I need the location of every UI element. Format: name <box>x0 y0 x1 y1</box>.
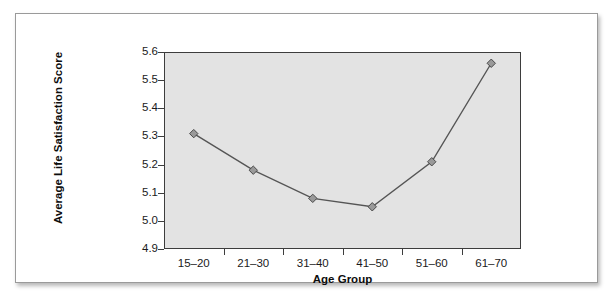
x-axis-tick-mark <box>283 249 284 255</box>
y-axis-tick-label: 5.3 <box>128 130 158 141</box>
y-axis-tick-mark <box>158 108 164 109</box>
x-axis-tick-mark <box>224 249 225 255</box>
y-axis-tick-mark <box>158 165 164 166</box>
y-axis-tick-mark <box>158 136 164 137</box>
chart-card: Average Life Satisfaction Score 4.95.05.… <box>15 13 598 283</box>
y-axis-tick-label: 5.6 <box>128 46 158 57</box>
x-axis-title: Age Group <box>164 273 521 285</box>
data-point-marker <box>190 129 198 137</box>
series-line-chart <box>164 52 521 249</box>
y-axis-tick-mark <box>158 221 164 222</box>
y-axis-tick-label: 5.2 <box>128 159 158 170</box>
data-point-marker <box>309 194 317 202</box>
x-axis-tick-mark <box>402 249 403 255</box>
y-axis-tick-label: 5.4 <box>128 102 158 113</box>
figure-root: Average Life Satisfaction Score 4.95.05.… <box>0 0 615 298</box>
x-axis-tick-label: 61–70 <box>456 257 526 269</box>
y-axis-tick-label: 5.5 <box>128 74 158 85</box>
x-axis-tick-mark <box>343 249 344 255</box>
y-axis-tick-mark <box>158 80 164 81</box>
y-axis-tick-label: 5.0 <box>128 215 158 226</box>
x-axis-tick-mark <box>462 249 463 255</box>
y-axis-tick-mark <box>158 249 164 250</box>
series-line <box>194 63 492 207</box>
y-axis-tick-label: 5.1 <box>128 187 158 198</box>
y-axis-tick-mark <box>158 193 164 194</box>
y-axis-title: Average Life Satisfaction Score <box>52 38 64 238</box>
y-axis-tick-labels: 4.95.05.15.25.35.45.55.6 <box>124 14 158 298</box>
data-point-marker <box>249 166 257 174</box>
data-point-marker <box>487 59 495 67</box>
y-axis-tick-label: 4.9 <box>128 243 158 254</box>
y-axis-tick-mark <box>158 52 164 53</box>
